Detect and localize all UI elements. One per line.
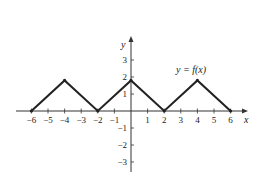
x-tick-label: 6	[228, 115, 233, 125]
x-axis-arrow-icon	[242, 109, 248, 114]
x-tick-label: 1	[145, 115, 150, 125]
y-axis-label: y	[120, 39, 126, 50]
x-tick-label: 4	[195, 115, 200, 125]
x-axis-label: x	[243, 114, 249, 125]
function-label: y = f(x)	[175, 64, 207, 76]
x-tick-label: −2	[93, 115, 103, 125]
x-tick-label: −6	[27, 115, 37, 125]
x-tick-label: −3	[76, 115, 86, 125]
vertex-point	[163, 109, 166, 112]
vertex-point	[196, 79, 199, 82]
x-tick-label: −5	[43, 115, 53, 125]
y-tick-label: 2	[123, 72, 128, 82]
y-tick-label: −3	[117, 157, 127, 167]
y-tick-label: 3	[123, 55, 128, 65]
y-tick-label: 1	[123, 89, 128, 99]
axes	[16, 36, 248, 172]
x-tick-label: 3	[179, 115, 184, 125]
vertex-point	[96, 109, 99, 112]
vertex-point	[129, 79, 132, 82]
chart: −6−5−4−3−2−1123456−3−2−1123 xyy = f(x)	[0, 0, 266, 190]
y-tick-label: −1	[117, 123, 127, 133]
vertex-point	[30, 109, 33, 112]
y-axis-arrow-icon	[129, 36, 134, 42]
x-tick-label: −4	[60, 115, 70, 125]
x-tick-label: 2	[162, 115, 167, 125]
x-tick-label: 5	[212, 115, 217, 125]
vertex-point	[63, 79, 66, 82]
vertex-point	[229, 109, 232, 112]
y-tick-label: −2	[117, 140, 127, 150]
